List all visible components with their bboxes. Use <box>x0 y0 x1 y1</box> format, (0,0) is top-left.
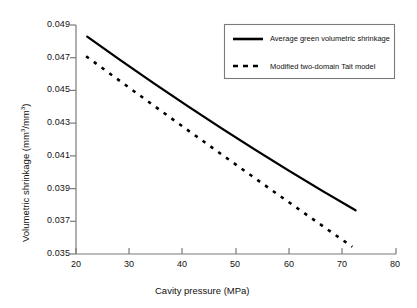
plot-canvas <box>0 0 417 308</box>
series-line-modified-two-domain-tait-model <box>86 56 352 247</box>
x-axis-ticks <box>76 248 396 254</box>
legend-box <box>225 25 395 79</box>
series-line-average-green-volumetric-shrinkage <box>87 37 355 211</box>
y-axis-ticks <box>70 25 76 254</box>
chart-figure: Volumetric shrinkage (mm3/mm3) Cavity pr… <box>0 0 417 308</box>
